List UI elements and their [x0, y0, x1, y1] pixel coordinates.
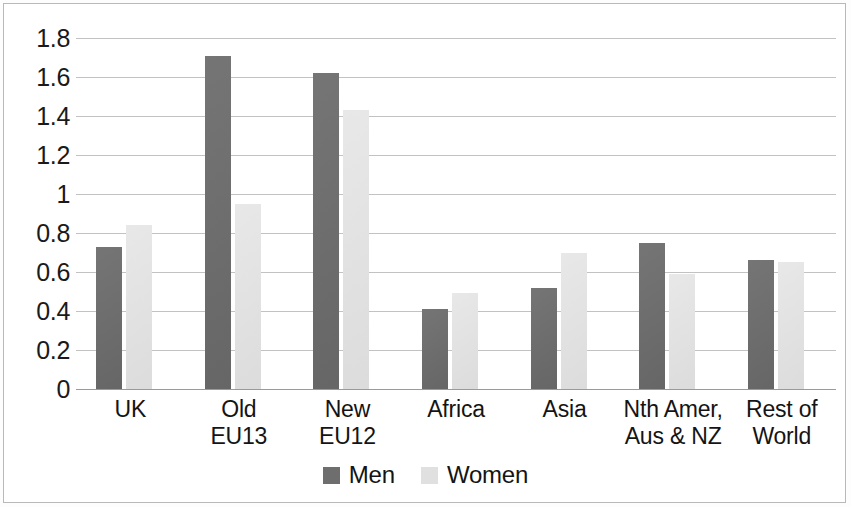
x-axis-tick-label-line2: EU13	[185, 423, 294, 450]
x-axis-tick-label-line1: New	[325, 396, 370, 422]
bar-women-africa	[452, 293, 478, 389]
bar-men-rest-of	[748, 260, 774, 389]
y-axis-tick-label: 0.6	[8, 260, 70, 285]
bar-women-old	[235, 204, 261, 389]
legend-item-men[interactable]: Men	[323, 463, 395, 487]
bar-men-africa	[422, 309, 448, 389]
gridline	[76, 233, 836, 234]
chart-plot-frame: 1.81.61.41.210.80.60.40.20 UKOldEU13NewE…	[3, 3, 846, 503]
gridline	[76, 155, 836, 156]
y-axis-tick-label: 1.2	[8, 143, 70, 168]
axis-baseline	[76, 389, 836, 390]
bar-men-old	[205, 56, 231, 389]
bar-men-nth-amer	[639, 243, 665, 389]
bar-women-asia	[561, 253, 587, 390]
bar-women-rest-of	[778, 262, 804, 389]
x-axis-tick-label: Africa	[402, 396, 511, 423]
y-axis-tick-label: 1	[8, 182, 70, 207]
x-axis-tick-label-line1: Nth Amer,	[624, 396, 723, 422]
x-axis-tick-label: NewEU12	[293, 396, 402, 450]
legend-item-women[interactable]: Women	[421, 463, 528, 487]
x-axis-category-labels: UKOldEU13NewEU12AfricaAsiaNth Amer,Aus &…	[76, 396, 836, 456]
x-axis-tick-label-line1: Old	[221, 396, 256, 422]
gridline	[76, 116, 836, 117]
y-axis-tick-label: 0.8	[8, 221, 70, 246]
bar-men-asia	[531, 288, 557, 389]
bar-men-uk	[96, 247, 122, 389]
y-axis-tick-label: 1.4	[8, 104, 70, 129]
plot-area	[76, 38, 836, 389]
bar-chart: 1.81.61.41.210.80.60.40.20 UKOldEU13NewE…	[0, 0, 851, 507]
x-axis-tick-label-line1: Africa	[427, 396, 485, 422]
y-axis-tick-label: 1.6	[8, 65, 70, 90]
x-axis-tick-label: Nth Amer,Aus & NZ	[619, 396, 728, 450]
x-axis-tick-label-line2: EU12	[293, 423, 402, 450]
x-axis-tick-label-line1: UK	[115, 396, 147, 422]
x-axis-tick-label: Rest ofWorld	[727, 396, 836, 450]
x-axis-tick-label: Asia	[510, 396, 619, 423]
y-axis: 1.81.61.41.210.80.60.40.20	[4, 38, 70, 389]
gridline	[76, 194, 836, 195]
y-axis-tick-label: 0.4	[8, 299, 70, 324]
bar-women-new	[343, 110, 369, 389]
x-axis-tick-label: OldEU13	[185, 396, 294, 450]
x-axis-tick-label-line2: World	[727, 423, 836, 450]
gridline	[76, 77, 836, 78]
bar-women-nth-amer	[669, 274, 695, 389]
x-axis-tick-label-line1: Rest of	[746, 396, 817, 422]
chart-legend: MenWomen	[4, 463, 847, 487]
women-swatch-icon	[421, 467, 438, 484]
legend-label: Women	[447, 463, 528, 487]
bar-women-uk	[126, 225, 152, 389]
men-swatch-icon	[323, 467, 340, 484]
y-axis-tick-label: 0.2	[8, 338, 70, 363]
x-axis-tick-label-line1: Asia	[543, 396, 587, 422]
gridline	[76, 38, 836, 39]
legend-label: Men	[349, 463, 395, 487]
x-axis-tick-label-line2: Aus & NZ	[619, 423, 728, 450]
gridline	[76, 272, 836, 273]
y-axis-tick-label: 1.8	[8, 26, 70, 51]
x-axis-tick-label: UK	[76, 396, 185, 423]
y-axis-tick-label: 0	[8, 377, 70, 402]
bar-men-new	[313, 73, 339, 389]
